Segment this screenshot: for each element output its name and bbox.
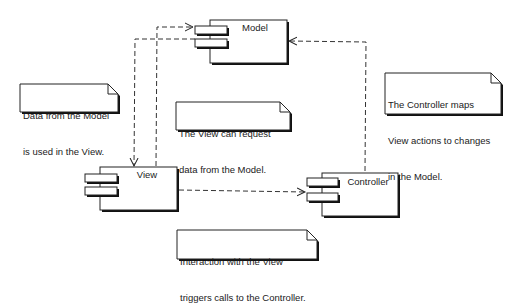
- note-line: is used in the View.: [23, 146, 109, 158]
- note-interaction-text: Interaction with the View triggers calls…: [180, 232, 306, 307]
- note-view-request-text: The View can request data from the Model…: [179, 104, 271, 188]
- note-line: Interaction with the View: [180, 256, 306, 268]
- note-line: triggers calls to the Controller.: [180, 292, 306, 304]
- dependency-controller-to-model: [289, 41, 366, 171]
- note-controller-maps-text: The Controller maps View actions to chan…: [388, 75, 490, 195]
- component-view-name: View: [120, 169, 174, 180]
- note-line: in the Model.: [388, 171, 490, 183]
- note-line: data from the Model.: [179, 164, 271, 176]
- note-data-from-model-text: Data from the Model is used in the View.: [23, 86, 109, 170]
- note-line: View actions to changes: [388, 135, 490, 147]
- note-line: The View can request: [179, 128, 271, 140]
- component-model-name: Model: [230, 22, 280, 33]
- dependency-view-to-controller: [179, 190, 305, 192]
- note-line: Data from the Model: [23, 110, 109, 122]
- note-line: The Controller maps: [388, 99, 490, 111]
